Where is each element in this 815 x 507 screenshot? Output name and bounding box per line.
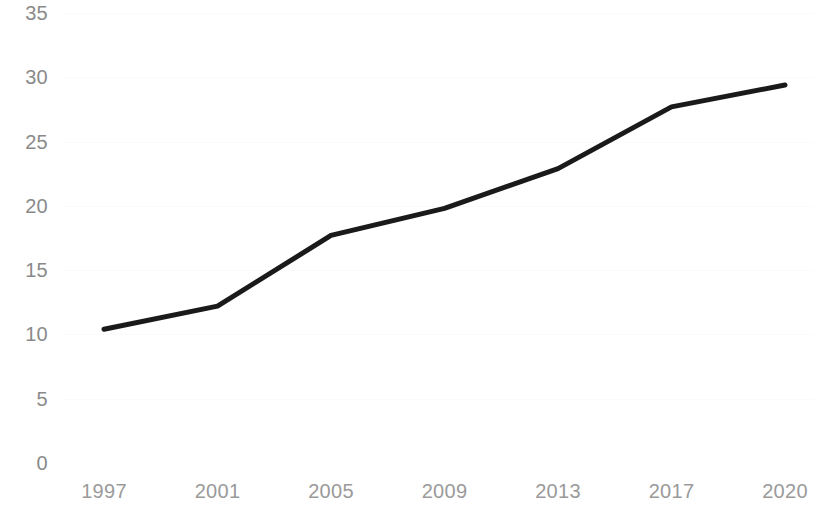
- line-chart: 05101520253035 1997200120052009201320172…: [0, 0, 815, 507]
- data-line: [104, 85, 785, 329]
- data-series-layer: [0, 0, 815, 507]
- plot-area: 05101520253035 1997200120052009201320172…: [0, 0, 815, 507]
